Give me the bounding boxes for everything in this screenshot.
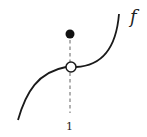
filled-point: [66, 30, 75, 39]
open-circle-point: [66, 62, 76, 72]
function-label: f: [128, 6, 140, 27]
x-tick-label: 1: [66, 120, 73, 133]
function-diagram: f 1: [0, 0, 147, 137]
